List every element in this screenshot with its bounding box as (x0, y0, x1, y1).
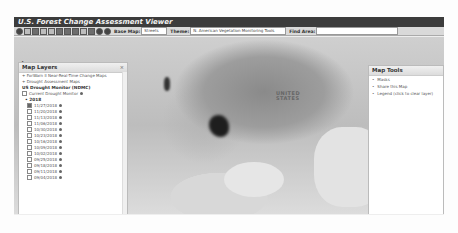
checkbox[interactable] (27, 109, 32, 114)
info-icon[interactable] (80, 92, 83, 95)
checkbox[interactable] (27, 127, 32, 132)
close-icon[interactable]: × (120, 63, 124, 72)
drought-region-nw (164, 77, 170, 91)
drought-region (209, 115, 229, 137)
base-map-select[interactable]: Streets (141, 27, 167, 35)
info-icon[interactable] (59, 110, 62, 113)
info-icon[interactable] (59, 104, 62, 107)
tool-icon-2[interactable] (56, 28, 63, 35)
info-icon[interactable] (59, 116, 62, 119)
layers-icon[interactable] (24, 28, 31, 35)
map-canvas[interactable]: UNITED STATES ♟ Map Layers × + ForWarn I… (14, 37, 444, 214)
tool-icon-3[interactable] (64, 28, 71, 35)
theme-select[interactable]: N. American Vegetation Monitoring Tools (190, 27, 286, 35)
info-icon[interactable] (59, 158, 62, 161)
info-icon[interactable] (59, 176, 62, 179)
tool-legend[interactable]: Legend (click to clear layer) (369, 90, 443, 97)
checkbox[interactable] (27, 115, 32, 120)
info-icon[interactable] (59, 140, 62, 143)
theme-label: Theme: (170, 29, 189, 34)
base-map-label: Base Map: (114, 29, 140, 34)
tool-icon-5[interactable] (80, 28, 87, 35)
tool-icon-4[interactable] (72, 28, 79, 35)
date-item[interactable]: 09/04/2018 (19, 175, 127, 181)
info-icon[interactable] (59, 146, 62, 149)
checkbox[interactable] (27, 157, 32, 162)
app-title: U.S. Forest Change Assessment Viewer (14, 17, 444, 27)
info-icon[interactable] (59, 134, 62, 137)
gulf-of-mexico (224, 162, 284, 197)
map-tools-panel: Map Tools Masks Share this Map Legend (c… (368, 65, 444, 214)
map-layers-header: Map Layers × (19, 63, 127, 73)
info-icon[interactable] (59, 164, 62, 167)
info-icon[interactable] (59, 122, 62, 125)
tool-share-map[interactable]: Share this Map (369, 83, 443, 90)
tool-masks[interactable]: Masks (369, 76, 443, 83)
checkbox[interactable] (27, 133, 32, 138)
toolbar: Base Map: Streets Theme: N. American Veg… (14, 27, 444, 36)
checkbox[interactable] (27, 121, 32, 126)
tool-icon-6[interactable] (88, 28, 95, 35)
checkbox-checked[interactable] (27, 103, 32, 108)
checkbox[interactable] (27, 169, 32, 174)
checkbox[interactable] (27, 151, 32, 156)
app-window: U.S. Forest Change Assessment Viewer Bas… (14, 17, 444, 215)
globe-icon[interactable] (16, 28, 23, 35)
checkbox[interactable] (22, 91, 27, 96)
zoom-out-icon[interactable] (104, 28, 111, 35)
find-area-input[interactable] (316, 27, 398, 35)
print-icon[interactable] (40, 28, 47, 35)
map-layers-panel: Map Layers × + ForWarn II Near-Real-Time… (18, 62, 128, 214)
help-icon[interactable] (32, 28, 39, 35)
info-icon[interactable] (59, 152, 62, 155)
layers-scrollbar[interactable] (122, 72, 127, 214)
checkbox[interactable] (27, 175, 32, 180)
zoom-in-icon[interactable] (96, 28, 103, 35)
info-icon[interactable] (59, 128, 62, 131)
country-label: UNITED STATES (276, 91, 300, 101)
info-icon[interactable] (59, 170, 62, 173)
map-tools-header: Map Tools (369, 66, 443, 76)
tool-icon-1[interactable] (48, 28, 55, 35)
checkbox[interactable] (27, 163, 32, 168)
checkbox[interactable] (27, 145, 32, 150)
find-area-label: Find Area: (289, 29, 315, 34)
checkbox[interactable] (27, 139, 32, 144)
